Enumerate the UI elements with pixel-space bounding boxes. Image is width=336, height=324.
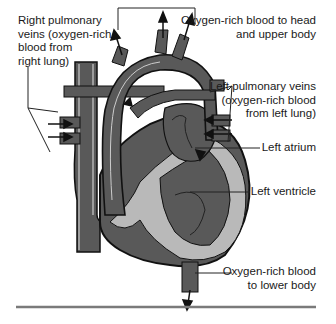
label-left-atrium: Left atrium [262,141,316,155]
left-carotid-artery [155,30,168,54]
label-to-head-upper-body: Oxygen-rich blood to head and upper body [181,14,316,41]
left-pulmonary-vein-low [212,130,230,141]
label-left-ventricle: Left ventricle [251,185,316,199]
label-left-pulmonary-veins: Left pulmonary veins (oxygen-rich blood … [210,80,316,121]
descending-aorta [182,262,198,292]
label-to-lower-body: Oxygen-rich blood to lower body [223,265,316,292]
label-right-pulmonary-veins: Right pulmonary veins (oxygen-rich blood… [18,14,111,68]
